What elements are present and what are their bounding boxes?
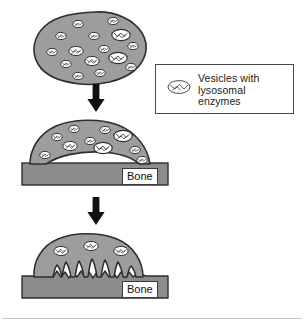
arrow-top-to-middle — [87, 84, 104, 112]
osteoclast-diagram — [0, 0, 304, 323]
legend-text: Vesicles with lysosomal enzymes — [198, 73, 292, 108]
legend-line-1: Vesicles with — [198, 73, 292, 85]
osteoclast-cell-body-bottom — [34, 234, 143, 277]
free-osteoclast-panel — [34, 12, 146, 85]
legend-line-3: enzymes — [198, 96, 292, 108]
footer-divider — [2, 318, 302, 319]
arrow-middle-to-bottom — [87, 197, 104, 225]
bone-label-middle: Bone — [122, 168, 158, 185]
legend-box: Vesicles with lysosomal enzymes — [155, 64, 294, 114]
vesicle-icon — [166, 79, 192, 95]
bone-label-bottom: Bone — [122, 281, 158, 298]
